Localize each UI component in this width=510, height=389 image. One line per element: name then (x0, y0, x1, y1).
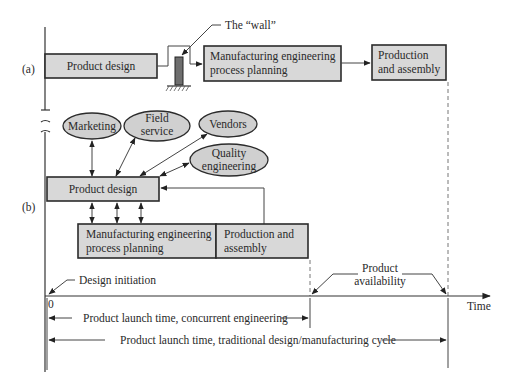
panel-a-production-line1: Production (378, 49, 429, 61)
panel-b-mfg-line2: process planning (86, 242, 164, 255)
panel-a-connector (157, 46, 190, 66)
wall-label: The “wall” (225, 19, 276, 31)
panel-a-production-box: Production and assembly (372, 45, 446, 80)
design-initiation-leader (49, 280, 75, 294)
panel-b-production-line1: Production and (224, 228, 294, 240)
panel-b-product-design-label: Product design (69, 183, 138, 196)
panel-a-mfg-line2: process planning (210, 64, 288, 77)
ellipse-vendors: Vendors (199, 111, 257, 137)
production-feedback-line (161, 188, 264, 224)
ellipse-marketing-label: Marketing (68, 120, 116, 133)
ellipse-quality-line1: Quality (212, 147, 247, 160)
design-mfg-arrows (92, 203, 141, 223)
panel-a-label: (a) (22, 63, 35, 76)
panel-a-mfg-engineering-box: Manufacturing engineering process planni… (204, 46, 341, 81)
design-initiation-label: Design initiation (79, 274, 156, 287)
wall-icon (166, 57, 191, 91)
availability-leader-right (402, 274, 446, 294)
time-axis-label: Time (467, 300, 491, 312)
concurrent-engineering-diagram: (a) Product design The “wall” Manufactur… (0, 0, 510, 389)
ellipse-marketing: Marketing (63, 113, 121, 139)
ellipse-field-service-line2: service (141, 125, 174, 137)
panel-b-production-box: Production and assembly (216, 224, 308, 258)
panel-a-production-line2: and assembly (378, 63, 441, 76)
panel-a-mfg-line1: Manufacturing engineering (210, 50, 336, 63)
panel-a-product-design-box: Product design (45, 54, 157, 78)
ellipse-quality-line2: engineering (202, 160, 257, 173)
ellipse-quality-engineering: Quality engineering (190, 144, 268, 176)
traditional-span-label: Product launch time, traditional design/… (120, 334, 396, 347)
panel-b-mfg-engineering-box: Manufacturing engineering process planni… (78, 224, 216, 258)
vertical-axis-b (41, 121, 50, 373)
panel-b-mfg-line1: Manufacturing engineering (86, 228, 212, 241)
product-availability-line1: Product (362, 262, 399, 274)
panel-b-label: (b) (22, 201, 36, 214)
product-availability-line2: availability (354, 275, 406, 288)
ellipse-field-service-line1: Field (145, 112, 169, 124)
ellipse-vendors-label: Vendors (209, 118, 247, 130)
ellipse-field-service: Field service (124, 111, 190, 141)
panel-a-product-design-label: Product design (67, 60, 136, 73)
panel-b-product-design-box: Product design (47, 177, 159, 201)
time-zero-label: 0 (48, 298, 54, 310)
concurrent-span-label: Product launch time, concurrent engineer… (83, 312, 288, 325)
panel-b-production-line2: assembly (224, 242, 267, 255)
availability-leader-left (312, 274, 358, 294)
